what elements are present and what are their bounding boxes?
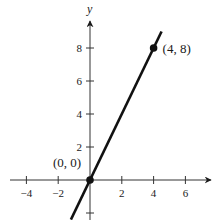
y-tick-label: 6 [77, 75, 83, 87]
x-tick-label: 2 [119, 187, 125, 199]
x-tick-label: −2 [52, 187, 64, 199]
data-point-label: (4, 8) [163, 41, 191, 56]
line-chart: −4−22462468 (0, 0)(4, 8) y [0, 0, 213, 220]
y-axis-label: y [86, 2, 93, 16]
y-tick-label: 4 [77, 108, 83, 120]
x-tick-label: −4 [21, 187, 33, 199]
y-tick-label: 2 [77, 141, 83, 153]
x-tick-label: 6 [183, 187, 189, 199]
x-tick-label: 4 [151, 187, 157, 199]
series-line [71, 32, 162, 220]
data-point [86, 176, 94, 184]
data-series [71, 32, 162, 220]
y-tick-label: 8 [77, 42, 83, 54]
data-point [150, 44, 158, 52]
data-point-label: (0, 0) [53, 155, 81, 170]
axis-ticks: −4−22462468 [21, 42, 189, 213]
